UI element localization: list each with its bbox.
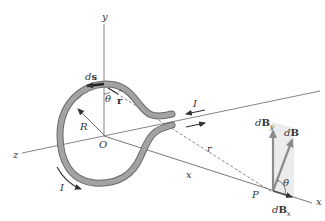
radius-label: R xyxy=(79,121,88,132)
x-distance-label: x xyxy=(186,169,192,180)
loop-field-diagram: y z x x O R ds θ r ^ I I r P dB dBy dBx … xyxy=(0,0,325,221)
dBx-label: dBx xyxy=(272,204,291,218)
current-out-arrow xyxy=(186,123,205,127)
distance-r-label: r xyxy=(207,143,213,154)
current-top-label: I xyxy=(192,98,198,109)
point-P-label: P xyxy=(251,189,259,200)
y-axis-label: y xyxy=(101,11,108,22)
dBy-label: dBy xyxy=(255,117,275,131)
z-axis-label: z xyxy=(12,149,19,160)
dB-label: dB xyxy=(284,127,299,138)
r-hat-caret: ^ xyxy=(118,89,124,97)
ds-label: ds xyxy=(85,71,97,82)
current-in-arrow xyxy=(186,110,205,114)
theta-P-label: θ xyxy=(283,177,289,188)
current-bottom-label: I xyxy=(59,182,65,193)
origin-label: O xyxy=(99,139,107,150)
x-axis-end-label: x xyxy=(316,196,322,207)
theta-top-label: θ xyxy=(105,93,111,104)
